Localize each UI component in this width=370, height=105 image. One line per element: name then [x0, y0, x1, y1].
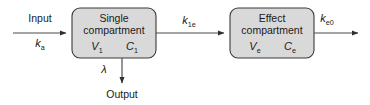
- single-compartment-volume-subscript: 1: [99, 46, 103, 55]
- pk-model-diagram: Input ka Single compartment V1 C1 k1e Ef…: [0, 0, 370, 105]
- transfer-arrow-group: k1e: [156, 14, 224, 33]
- single-compartment-title-line1: Single: [99, 12, 128, 24]
- input-rate-label: ka: [35, 37, 45, 52]
- transfer-rate-label: k1e: [182, 14, 196, 29]
- single-compartment-box[interactable]: Single compartment V1 C1: [72, 8, 156, 58]
- single-compartment-title-line2: compartment: [83, 24, 144, 36]
- effect-compartment-title-line2: compartment: [241, 24, 302, 36]
- elimination-arrow-group: λ Output: [100, 58, 138, 100]
- diagram-canvas: Input ka Single compartment V1 C1 k1e Ef…: [0, 0, 370, 105]
- elimination-rate-label: λ: [100, 63, 106, 75]
- transfer-rate-subscript: 1e: [188, 20, 196, 29]
- input-label: Input: [28, 12, 51, 24]
- effect-out-rate-subscript: e0: [326, 18, 334, 27]
- effect-compartment-concentration-subscript: e: [292, 46, 296, 55]
- single-compartment-concentration-symbol: C: [126, 40, 134, 52]
- effect-compartment-title-line1: Effect: [259, 12, 286, 24]
- output-label: Output: [106, 88, 138, 100]
- effect-compartment-concentration-symbol: C: [284, 40, 292, 52]
- effect-compartment-box[interactable]: Effect compartment Ve Ce: [230, 8, 314, 58]
- effect-out-rate-label: ke0: [320, 12, 334, 27]
- single-compartment-concentration-subscript: 1: [134, 46, 138, 55]
- effect-compartment-volume-subscript: e: [257, 46, 261, 55]
- effect-out-arrow-group: ke0: [314, 12, 358, 33]
- input-rate-subscript: a: [41, 43, 45, 52]
- input-arrow-group: Input ka: [13, 12, 66, 52]
